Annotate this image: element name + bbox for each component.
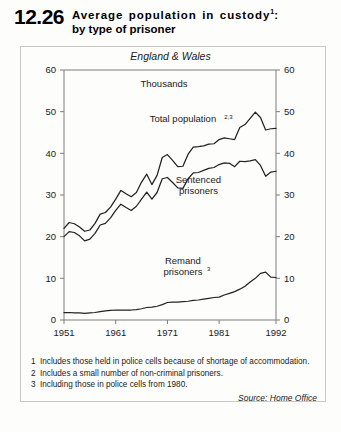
y-tick-label-right: 60 [284, 64, 295, 75]
y-tick-label-right: 20 [284, 231, 295, 242]
series-label-sentenced-prisoners: Sentenced [176, 174, 221, 185]
line-chart-svg: 0010102020303040405050606019511961197119… [0, 64, 341, 344]
series-label-total-population: Total population [150, 113, 217, 124]
footnote-number: 2 [31, 368, 40, 380]
footnote-text: Includes a small number of non-criminal … [40, 369, 223, 378]
footnote-number: 3 [31, 379, 40, 391]
series-label-remand-prisoners: Remand [165, 255, 201, 266]
footnote-item: 1Includes those held in police cells bec… [31, 356, 321, 368]
units-label: Thousands [140, 78, 187, 89]
figure-number: 12.26 [0, 0, 72, 27]
y-tick-label-left: 60 [45, 64, 56, 75]
y-tick-label-left: 40 [45, 148, 56, 159]
figure-title-line1-text: Average population in custody [72, 9, 270, 21]
series-label-remand-prisoners-line2: prisoners [163, 266, 202, 277]
series-line-sentenced-prisoners [64, 160, 276, 241]
figure-title-line1: Average population in custody1: [72, 5, 331, 22]
figure-subtitle: England & Wales [0, 50, 341, 62]
x-tick-label: 1961 [105, 327, 126, 338]
series-label-remand-prisoners-footnote-ref: 3 [207, 266, 211, 272]
source-note: Source: Home Office [31, 393, 317, 403]
series-label-sentenced-prisoners-line2: prisoners [179, 185, 218, 196]
y-tick-label-right: 40 [284, 148, 295, 159]
y-tick-label-left: 50 [45, 106, 56, 117]
series-label-total-population-footnote-ref: 2,3 [224, 114, 233, 120]
x-tick-label: 1971 [157, 327, 178, 338]
footnote-text: Including those in police cells from 198… [40, 380, 187, 389]
x-tick-label: 1992 [265, 327, 286, 338]
figure-header: 12.26 Average population in custody1: by… [0, 0, 341, 46]
footnote-text: Includes those held in police cells beca… [40, 357, 309, 366]
figure-title: Average population in custody1: by type … [72, 0, 341, 36]
y-tick-label-left: 20 [45, 231, 56, 242]
y-tick-label-right: 30 [284, 189, 295, 200]
footnote-item: 2Includes a small number of non-criminal… [31, 368, 321, 380]
figure-title-line2: by type of prisoner [72, 22, 331, 36]
x-tick-label: 1951 [53, 327, 74, 338]
footnote-item: 3Including those in police cells from 19… [31, 379, 321, 391]
chart-plot-area: 0010102020303040405050606019511961197119… [0, 64, 341, 344]
y-tick-label-right: 0 [284, 314, 289, 325]
figure-title-colon: : [274, 9, 279, 21]
footnote-number: 1 [31, 356, 40, 368]
y-tick-label-right: 50 [284, 106, 295, 117]
series-line-total-population [64, 112, 276, 231]
y-tick-label-left: 30 [45, 189, 56, 200]
figure-page: 12.26 Average population in custody1: by… [0, 0, 341, 432]
x-tick-label: 1981 [209, 327, 230, 338]
y-tick-label-right: 10 [284, 273, 295, 284]
y-tick-label-left: 10 [45, 273, 56, 284]
footnote-list: 1Includes those held in police cells bec… [31, 356, 321, 391]
y-tick-label-left: 0 [51, 314, 56, 325]
series-line-remand-prisoners [64, 272, 276, 313]
